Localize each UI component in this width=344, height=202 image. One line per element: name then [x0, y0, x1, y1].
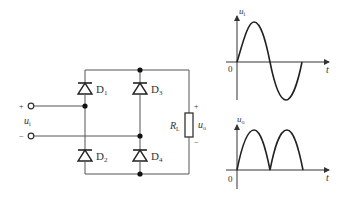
input-chart-xlabel: t [326, 64, 329, 75]
output-chart-origin: 0 [228, 174, 233, 184]
label-d1: D1 [96, 83, 108, 97]
bridge-circuit [34, 70, 189, 174]
input-minus-sign: − [19, 132, 24, 141]
output-voltage-label: uo [198, 119, 206, 131]
load-resistor-icon [185, 113, 193, 137]
diode-d1-icon [78, 82, 92, 95]
output-minus-sign: − [194, 138, 199, 147]
label-d2: D2 [96, 150, 108, 164]
label-d4: D4 [151, 150, 163, 164]
diode-d3-icon [133, 82, 147, 95]
load-resistor-label: RL [169, 120, 180, 132]
input-chart-origin: 0 [228, 64, 233, 74]
rectifier-figure: D1 D3 D2 D4 + − ui RL uo + − ui 0 t uo 0… [0, 0, 344, 202]
label-d3: D3 [151, 83, 163, 97]
output-waveform-chart: uo 0 t [226, 114, 329, 189]
input-sine-curve [237, 22, 302, 100]
diode-d4-icon [133, 149, 147, 162]
output-chart-xlabel: t [326, 172, 329, 183]
output-rectified-curve [237, 130, 303, 170]
output-chart-ylabel: uo [237, 114, 245, 125]
input-plus-sign: + [19, 102, 24, 111]
diode-d2-icon [78, 149, 92, 162]
input-voltage-label: ui [24, 115, 31, 127]
input-waveform-chart: ui 0 t [226, 6, 329, 100]
input-chart-ylabel: ui [239, 6, 246, 17]
output-plus-sign: + [194, 102, 199, 111]
